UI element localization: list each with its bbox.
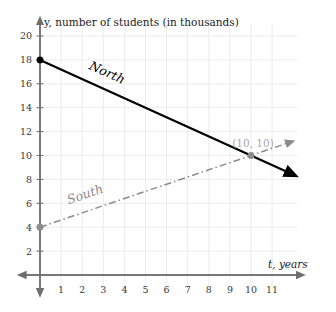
x-tick-label: 4 xyxy=(121,284,127,295)
x-tick-label: 10 xyxy=(245,284,257,295)
y-tick-label: 2 xyxy=(26,246,32,257)
x-tick-label: 7 xyxy=(185,284,191,295)
intersection-annotation: (10, 10) xyxy=(232,137,274,149)
y-tick-label: 20 xyxy=(20,30,32,41)
x-tick-label: 11 xyxy=(266,284,278,295)
x-tick-label: 3 xyxy=(100,284,106,295)
x-tick-label: 2 xyxy=(79,284,85,295)
y-tick-label: 4 xyxy=(26,222,32,233)
y-tick-label: 12 xyxy=(20,126,32,137)
y-tick-label: 14 xyxy=(20,102,32,113)
x-tick-label: 8 xyxy=(206,284,212,295)
y-tick-label: 16 xyxy=(20,78,32,89)
students-line-chart: 2468101214161820 1234567891011 NorthSout… xyxy=(0,0,336,312)
y-tick-label: 8 xyxy=(26,174,32,185)
x-tick-label: 6 xyxy=(164,284,170,295)
data-point-marker xyxy=(248,152,255,159)
x-tick-label: 9 xyxy=(227,284,233,295)
x-tick-label: 5 xyxy=(142,284,148,295)
y-axis-title: y, number of students (in thousands) xyxy=(43,16,239,28)
x-axis-title: t, years xyxy=(268,258,308,270)
chart-annotations: (10, 10) xyxy=(232,137,274,149)
x-tick-label: 1 xyxy=(58,284,64,295)
chart-figure: 2468101214161820 1234567891011 NorthSout… xyxy=(0,0,336,312)
data-point-marker xyxy=(37,57,44,64)
y-tick-label: 6 xyxy=(26,198,32,209)
y-tick-label: 10 xyxy=(20,150,32,161)
y-tick-label: 18 xyxy=(20,54,32,65)
data-point-marker xyxy=(37,224,44,231)
